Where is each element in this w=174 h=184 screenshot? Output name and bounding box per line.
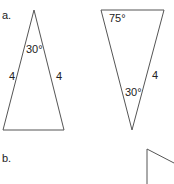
right-side-label: 4 (56, 71, 62, 82)
right-side-label-2: 4 (152, 70, 158, 81)
apex-angle-label: 30° (26, 44, 43, 55)
shape-b-partial (147, 149, 174, 184)
left-side-label: 4 (9, 71, 15, 82)
figure-canvas (0, 0, 174, 184)
bottom-angle-label: 30° (125, 87, 142, 98)
part-b-label: b. (2, 153, 11, 164)
part-a-label: a. (2, 10, 11, 21)
top-left-angle-label: 75° (109, 13, 126, 24)
